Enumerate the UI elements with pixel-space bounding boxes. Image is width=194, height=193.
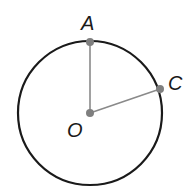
- label-c: C: [168, 72, 183, 94]
- label-o: O: [67, 119, 83, 141]
- label-a: A: [80, 12, 94, 34]
- diagram-canvas: A C O: [0, 0, 194, 193]
- point-c: [156, 85, 164, 93]
- radius-oc: [90, 89, 160, 113]
- circle-diagram: A C O: [0, 0, 194, 193]
- point-o: [86, 109, 94, 117]
- point-a: [86, 38, 94, 46]
